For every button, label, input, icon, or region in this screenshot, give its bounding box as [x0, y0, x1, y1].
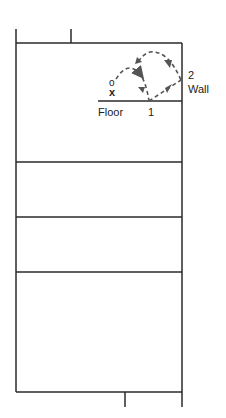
arrow-icon — [165, 84, 172, 93]
arrow-icon — [135, 57, 142, 64]
court-outline — [16, 29, 182, 407]
point-2-label: 2 — [188, 70, 194, 81]
court-diagram — [0, 0, 226, 418]
arrow-icon — [164, 60, 172, 68]
ball-path — [116, 52, 181, 101]
point-1-label: 1 — [148, 107, 154, 118]
arrow-icon — [138, 87, 145, 93]
floor-label: Floor — [98, 107, 123, 118]
wall-label: Wall — [188, 84, 209, 95]
marker-x: x — [109, 87, 115, 98]
